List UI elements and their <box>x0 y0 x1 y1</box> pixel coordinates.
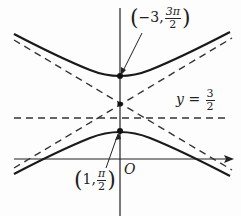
equation-equals: = <box>188 91 200 107</box>
hyperbola-figure: (−3,3π2) y = 32 O (1,π2) <box>0 0 241 216</box>
fraction-denominator: 2 <box>207 101 214 113</box>
upper-vertex-fraction: 3π2 <box>165 6 181 30</box>
lower-vertex-point <box>117 128 123 134</box>
lower-vertex-label: (1,π2) <box>74 168 116 192</box>
fraction-numerator: π <box>97 168 106 181</box>
fraction-numerator: 3 <box>206 88 215 101</box>
fraction-denominator: 2 <box>98 181 105 193</box>
upper-leader-line <box>122 33 142 73</box>
upper-vertex-coord-x: −3, <box>139 9 164 25</box>
fraction-denominator: 2 <box>169 19 176 31</box>
upper-vertex-label: (−3,3π2) <box>130 6 191 30</box>
fraction-numerator: 3π <box>165 6 181 19</box>
lower-vertex-fraction: π2 <box>97 168 106 192</box>
equation-variable: y <box>176 91 184 107</box>
upper-leader-arrow-icon <box>121 67 126 75</box>
asymptote-equation-label: y = 32 <box>176 88 216 112</box>
equation-fraction: 32 <box>206 88 215 112</box>
center-point <box>117 101 122 106</box>
lower-branch <box>14 132 230 176</box>
origin-label: O <box>124 162 135 176</box>
lower-vertex-coord-x: 1, <box>83 171 96 187</box>
